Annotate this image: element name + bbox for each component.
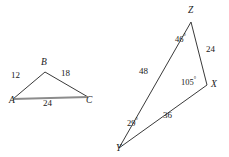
side-label-xy: 36 (163, 111, 172, 120)
vertex-label-a: A (9, 96, 15, 106)
angle-label-y: 29° (127, 117, 138, 127)
angle-value-x: 105 (181, 77, 194, 87)
angle-value-z: 46 (175, 34, 184, 44)
vertex-label-b: B (41, 58, 47, 68)
side-label-zx: 24 (206, 45, 215, 54)
angle-label-x: 105° (181, 76, 196, 86)
angle-label-z: 46° (175, 33, 186, 43)
side-label-yz: 48 (139, 67, 148, 76)
side-label-bc: 18 (61, 69, 70, 78)
degree-icon-z: ° (184, 33, 186, 39)
vertex-label-z: Z (188, 6, 193, 16)
vertex-label-y: Y (116, 144, 121, 154)
side-label-ac: 24 (43, 99, 52, 108)
triangle-abc-shape (13, 72, 88, 99)
geometry-figure: A B C 12 18 24 Z X Y 24 36 48 46° 105° 2… (0, 0, 229, 157)
vertex-label-c: C (86, 96, 92, 106)
side-label-ab: 12 (11, 71, 20, 80)
vertex-label-x: X (211, 80, 217, 90)
angle-value-y: 29 (127, 118, 136, 128)
degree-icon-y: ° (136, 117, 138, 123)
degree-icon-x: ° (194, 76, 196, 82)
